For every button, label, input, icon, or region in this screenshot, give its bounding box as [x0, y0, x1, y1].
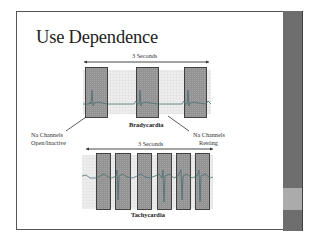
right-pointer-line — [168, 116, 189, 131]
annotation-left-line1: Na Channels — [31, 131, 63, 138]
annotation-right-line1: Na Channels — [193, 131, 225, 138]
annotation-left-line2: Open/Inactive — [31, 139, 66, 146]
tachycardia-strip — [82, 148, 213, 210]
bradycardia-duration-label: 3 Seconds — [132, 52, 157, 59]
tachycardia-caption: Tachycardia — [131, 211, 165, 218]
bradycardia-caption: Bradycardia — [129, 121, 163, 128]
left-pointer-line — [66, 117, 86, 131]
bradycardia-strip — [83, 61, 211, 118]
annotation-right-line2: Resting — [199, 139, 218, 146]
tachycardia-duration-label: 3 Seconds — [138, 140, 163, 147]
